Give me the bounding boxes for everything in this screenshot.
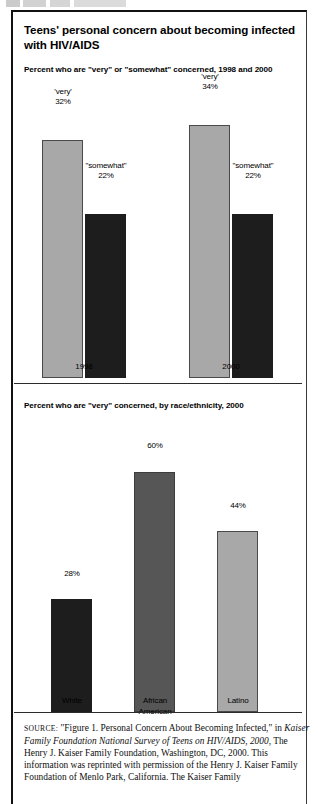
chart2-category-african-american: African American bbox=[129, 696, 181, 717]
chart1-plot-area: 'very' 32% "somewhat" 22% 1998 'very' 34… bbox=[14, 78, 302, 378]
bar-label-white: 28% bbox=[46, 569, 98, 579]
bar-1998-somewhat bbox=[85, 214, 126, 378]
chart2-plot-area: 28% White 60% African American 44% Latin… bbox=[14, 415, 302, 712]
source-label: SOURCE: bbox=[24, 724, 58, 733]
source-line1: "Figure 1. Personal Concern About Becomi… bbox=[58, 723, 284, 733]
bar-label-2000-somewhat: "somewhat" 22% bbox=[225, 161, 281, 181]
bar-label-african-american: 60% bbox=[129, 441, 181, 451]
bar-latino bbox=[217, 531, 258, 712]
chart1-caption: Percent who are "very" or "somewhat" con… bbox=[24, 64, 296, 75]
page-title: Teens' personal concern about becoming i… bbox=[24, 23, 296, 52]
bar-label-latino: 44% bbox=[212, 501, 264, 511]
figure-page: Teens' personal concern about becoming i… bbox=[0, 0, 318, 804]
source-divider bbox=[14, 712, 302, 713]
bar-2000-somewhat bbox=[232, 214, 273, 378]
source-note: SOURCE: "Figure 1. Personal Concern Abou… bbox=[24, 722, 312, 783]
chart2-category-white: White bbox=[46, 696, 98, 707]
chart1-category-1998: 1998 bbox=[58, 362, 110, 373]
running-head-strip bbox=[6, 0, 126, 7]
bar-label-1998-somewhat: "somewhat" 22% bbox=[78, 161, 134, 181]
bar-1998-very bbox=[42, 140, 83, 378]
chart1-category-2000: 2000 bbox=[205, 362, 257, 373]
section-divider bbox=[14, 383, 302, 384]
chart2-caption: Percent who are "very" concerned, by rac… bbox=[24, 400, 296, 411]
bar-2000-very bbox=[189, 125, 230, 378]
bar-label-2000-very: 'very' 34% bbox=[179, 72, 241, 92]
bar-label-1998-very: 'very' 32% bbox=[32, 87, 94, 107]
chart2-category-latino: Latino bbox=[212, 696, 264, 707]
bar-african-american bbox=[134, 472, 175, 712]
